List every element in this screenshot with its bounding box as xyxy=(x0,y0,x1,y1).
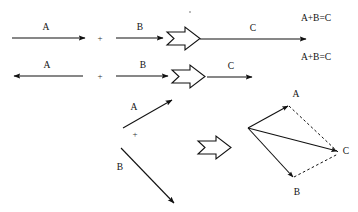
row-1-plus-sign: + xyxy=(97,33,102,43)
parallelogram-vertex-a-label: A xyxy=(293,89,300,99)
row-3-parallelogram-group: A B C xyxy=(248,89,349,197)
row-2-group: A + B C A+B=C xyxy=(14,52,331,88)
row-2-vector-a-label: A xyxy=(44,60,51,70)
row-2-implies-block-arrow xyxy=(172,65,205,88)
row-3-vector-b-label: B xyxy=(117,162,123,172)
parallelogram-vertex-b-label: B xyxy=(294,187,300,197)
parallelogram-edge-origin-c xyxy=(248,128,337,151)
row-3-plus-sign: + xyxy=(132,129,137,139)
row-3-vector-a-label: A xyxy=(131,102,138,112)
row-1-vector-b-label: B xyxy=(137,22,143,32)
row-1-implies-block-arrow xyxy=(167,27,200,50)
scan-speck xyxy=(189,11,191,13)
figure-canvas: A + B C A+B=C A + B C A+B=C A xyxy=(0,0,358,212)
row-2-vector-b-label: B xyxy=(140,60,146,70)
parallelogram-edge-origin-b xyxy=(248,128,293,177)
parallelogram-edge-origin-a xyxy=(248,106,288,128)
row-2-equation-label: A+B=C xyxy=(301,52,331,62)
row-1-result-c-label: C xyxy=(250,23,256,33)
row-1-vector-a-label: A xyxy=(43,22,50,32)
row-2-result-c-label: C xyxy=(228,61,234,71)
row-3-implies-block-arrow xyxy=(198,136,231,159)
parallelogram-vertex-c-label: C xyxy=(343,146,349,156)
row-3-vector-b-arrow xyxy=(121,148,174,203)
parallelogram-dashed-edge-b-c xyxy=(294,154,338,177)
row-2-plus-sign: + xyxy=(97,71,102,81)
row-1-group: A + B C A+B=C xyxy=(12,11,331,50)
row-3-operands-group: A + B xyxy=(117,100,231,203)
vector-addition-figure: A + B C A+B=C A + B C A+B=C A xyxy=(0,0,358,212)
row-1-equation-label: A+B=C xyxy=(301,13,331,23)
